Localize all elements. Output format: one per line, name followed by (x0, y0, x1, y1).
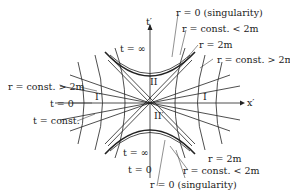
bottom-const-lt-label: r = const. < 2m (183, 166, 259, 176)
t-zero-label: t = 0 (50, 99, 74, 109)
top-horizon-label: r = 2m (199, 40, 233, 50)
top-singularity-label: r = 0 (singularity) (176, 8, 263, 18)
top-const-gt-label: r = const. > 2m (217, 55, 290, 65)
t-const-label: t = const. (33, 116, 80, 126)
left-const-gt-label: r = const. > 2m (8, 82, 84, 92)
bottom-horizon-label: r = 2m (208, 154, 242, 164)
bottom-singularity-label: r = 0 (singularity) (150, 180, 237, 190)
region-I-prime: I′ (95, 92, 101, 102)
t-bottom-label: t = 0 (128, 165, 152, 175)
t-inf-top-label: t = ∞ (120, 44, 146, 54)
top-const-lt-label: r = const. < 2m (182, 24, 258, 34)
region-II-prime: II′ (154, 111, 164, 121)
t-inf-bottom-label: t = ∞ (123, 148, 149, 158)
region-II: II (150, 77, 158, 87)
x-axis-label: x′ (247, 98, 255, 108)
t-axis-label: t′ (146, 17, 152, 27)
region-I: I (203, 92, 207, 102)
